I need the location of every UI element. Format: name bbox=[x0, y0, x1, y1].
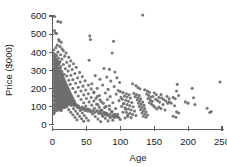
data-point bbox=[62, 49, 65, 52]
data-point bbox=[56, 20, 59, 23]
data-point bbox=[68, 64, 71, 67]
data-point bbox=[90, 82, 93, 85]
data-point bbox=[127, 107, 130, 110]
data-point bbox=[96, 103, 99, 106]
scatter-plot-figure: 0100200300400500600 050100150200250 Age … bbox=[0, 0, 227, 167]
data-point bbox=[122, 102, 125, 105]
data-point bbox=[76, 112, 79, 115]
data-point bbox=[139, 108, 142, 111]
data-point bbox=[126, 115, 129, 118]
data-point bbox=[67, 108, 70, 111]
data-point bbox=[192, 96, 195, 99]
data-point bbox=[82, 93, 85, 96]
data-point bbox=[74, 82, 77, 85]
x-axis-tick-label: 50 bbox=[81, 136, 92, 147]
data-point bbox=[155, 93, 158, 96]
data-point bbox=[78, 115, 81, 118]
y-axis-tick-label: 0 bbox=[41, 119, 46, 130]
data-point bbox=[98, 78, 101, 81]
data-point bbox=[134, 95, 137, 98]
data-point bbox=[141, 14, 144, 17]
data-point bbox=[87, 92, 90, 95]
data-point bbox=[109, 95, 112, 98]
data-point bbox=[71, 68, 74, 71]
y-axis-tick-label: 100 bbox=[31, 101, 47, 112]
x-axis-tick-label: 200 bbox=[180, 136, 196, 147]
data-point bbox=[65, 74, 68, 77]
data-point bbox=[115, 76, 118, 79]
data-point bbox=[100, 100, 103, 103]
data-point bbox=[105, 112, 108, 115]
data-point bbox=[176, 83, 179, 86]
data-point bbox=[92, 90, 95, 93]
data-point bbox=[65, 61, 68, 64]
data-point bbox=[175, 90, 178, 93]
data-point bbox=[71, 78, 74, 81]
data-point bbox=[218, 80, 221, 83]
data-point bbox=[130, 101, 133, 104]
data-point bbox=[98, 94, 101, 97]
data-point bbox=[157, 96, 160, 99]
y-axis-tick-label: 200 bbox=[31, 83, 47, 94]
data-point bbox=[98, 106, 101, 109]
data-point bbox=[116, 113, 119, 116]
data-point bbox=[118, 81, 121, 84]
data-point bbox=[151, 100, 154, 103]
data-point bbox=[88, 34, 91, 37]
data-point bbox=[101, 84, 104, 87]
data-point bbox=[124, 99, 127, 102]
data-point bbox=[59, 21, 62, 24]
data-point bbox=[119, 90, 122, 93]
y-axis-title: Price ($000) bbox=[3, 44, 14, 96]
data-point bbox=[85, 97, 88, 100]
data-point bbox=[172, 115, 175, 118]
data-point bbox=[117, 116, 120, 119]
data-point bbox=[133, 110, 136, 113]
data-point bbox=[77, 94, 80, 97]
data-point bbox=[56, 51, 59, 54]
data-point bbox=[75, 118, 78, 121]
data-point bbox=[129, 97, 132, 100]
data-point bbox=[161, 103, 164, 106]
data-point bbox=[99, 109, 102, 112]
data-point bbox=[142, 115, 145, 118]
data-point bbox=[79, 80, 82, 83]
data-point bbox=[74, 91, 77, 94]
data-point bbox=[159, 107, 162, 110]
data-point bbox=[111, 101, 114, 104]
data-point bbox=[174, 97, 177, 100]
data-point bbox=[60, 57, 63, 60]
data-point bbox=[72, 107, 75, 110]
data-point bbox=[75, 66, 78, 69]
data-point bbox=[73, 116, 76, 119]
data-point bbox=[166, 95, 169, 98]
data-point bbox=[193, 103, 196, 106]
data-point bbox=[54, 46, 57, 49]
x-axis-tick-label: 150 bbox=[146, 136, 162, 147]
data-point bbox=[96, 118, 99, 121]
data-point bbox=[208, 111, 211, 114]
data-point bbox=[138, 105, 141, 108]
data-point bbox=[120, 105, 123, 108]
data-point bbox=[90, 104, 93, 107]
data-point bbox=[94, 97, 97, 100]
data-point bbox=[94, 74, 97, 77]
data-point bbox=[103, 106, 106, 109]
data-point bbox=[94, 115, 97, 118]
x-axis-tick-label: 0 bbox=[50, 136, 55, 147]
data-point bbox=[128, 112, 131, 115]
data-point bbox=[124, 106, 127, 109]
data-point bbox=[82, 120, 85, 123]
data-point bbox=[58, 61, 61, 64]
data-point bbox=[111, 52, 114, 55]
data-point bbox=[106, 98, 109, 101]
data-point bbox=[104, 91, 107, 94]
data-point bbox=[164, 108, 167, 111]
x-axis-tick-label: 100 bbox=[112, 136, 128, 147]
data-point bbox=[125, 111, 128, 114]
data-point bbox=[126, 103, 129, 106]
y-axis-tick-label: 400 bbox=[31, 47, 47, 58]
data-point bbox=[79, 90, 82, 93]
data-point bbox=[128, 104, 131, 107]
data-point bbox=[117, 99, 120, 102]
